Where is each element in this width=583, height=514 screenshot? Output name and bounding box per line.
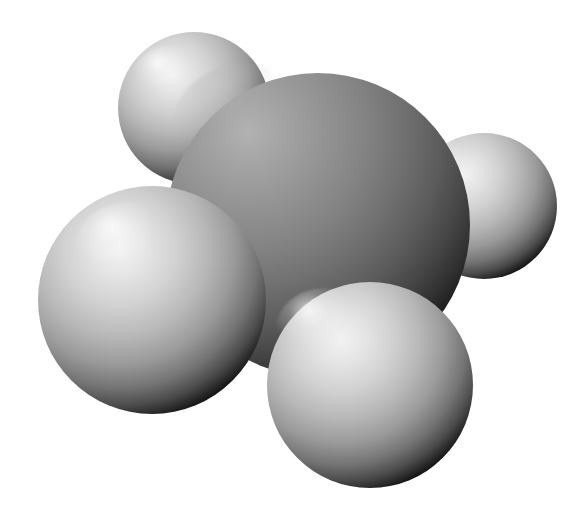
molecule-viewport <box>0 0 583 514</box>
specular-highlight <box>74 202 183 298</box>
atom-h-sphere <box>38 186 266 414</box>
atom-h-sphere <box>267 282 473 488</box>
specular-highlight <box>172 64 318 192</box>
specular-highlight <box>275 288 374 375</box>
molecule-canvas <box>0 0 583 514</box>
